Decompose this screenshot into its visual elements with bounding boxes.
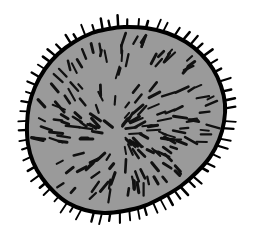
- interior-hair: [143, 125, 152, 126]
- interior-hair: [200, 112, 210, 113]
- interior-hair: [137, 183, 139, 193]
- interior-hair: [66, 126, 80, 127]
- interior-hair: [92, 131, 102, 133]
- interior-hair: [128, 188, 129, 195]
- interior-hair: [147, 130, 160, 131]
- interior-hair: [189, 120, 199, 122]
- interior-hair: [122, 51, 123, 62]
- interior-hair: [125, 159, 126, 172]
- interior-hair: [171, 147, 177, 149]
- interior-hair: [180, 128, 188, 129]
- interior-hair: [100, 50, 101, 56]
- interior-hair: [59, 141, 67, 142]
- interior-hair: [147, 177, 149, 185]
- interior-hair: [115, 96, 116, 105]
- organism-illustration: [0, 0, 253, 236]
- interior-hair: [201, 130, 209, 131]
- interior-hair: [50, 132, 63, 133]
- interior-hair: [91, 44, 93, 53]
- interior-hair: [174, 116, 187, 118]
- figure-canvas: [0, 0, 253, 236]
- interior-hair: [54, 119, 62, 120]
- interior-hair: [109, 180, 110, 189]
- interior-hair: [125, 147, 126, 154]
